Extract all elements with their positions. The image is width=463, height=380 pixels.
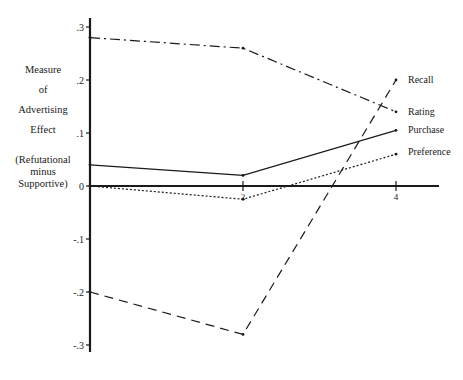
y-tick-label: .3 [77,22,85,33]
series-label-recall: Recall [408,74,434,85]
series-labels: RecallRatingPurchasePreference [408,74,451,157]
plot-area: .3.2.10-.1-.2-.324 RecallRatingPurchaseP… [0,0,463,380]
x-tick-label: 4 [394,192,399,202]
y-tick-label: -.3 [73,340,84,351]
data-point [242,174,245,177]
y-tick-label: .2 [77,75,85,86]
series-label-purchase: Purchase [408,124,445,135]
y-tick-label: 0 [79,181,84,192]
y-tick-label: .1 [77,128,85,139]
data-point [395,129,398,132]
data-point [242,333,245,336]
y-tick-label: -.1 [73,234,84,245]
series-line-recall [90,80,396,334]
series-label-preference: Preference [408,146,451,157]
data-point [395,79,398,82]
series-line-purchase [90,130,396,175]
data-point [242,47,245,50]
line-chart: Measure of Advertising Effect (Refutatio… [0,0,463,380]
data-point [395,153,398,156]
axes-layer: .3.2.10-.1-.2-.324 [73,18,439,352]
data-point [395,110,398,113]
y-tick-label: -.2 [73,287,84,298]
series-label-rating: Rating [408,106,435,117]
x-tick-label: 2 [241,192,246,202]
